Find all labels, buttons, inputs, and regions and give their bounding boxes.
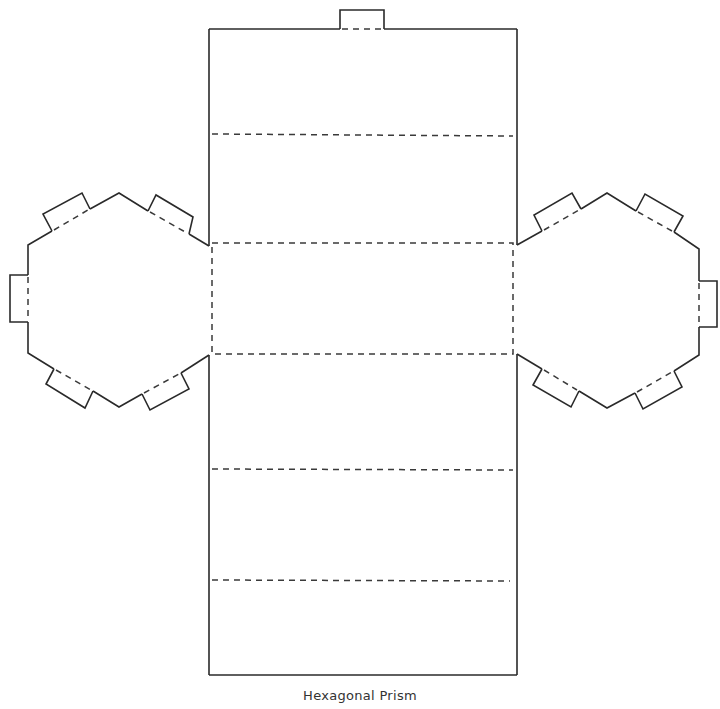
left-hex-tab-upper-right <box>148 195 193 234</box>
right-hexagon-base <box>517 193 717 409</box>
right-hex-tab-upper-left <box>534 193 581 231</box>
left-hex-tab-left <box>10 275 28 322</box>
right-hex-tab-lower-right <box>635 371 682 409</box>
middle-lateral-face <box>212 243 513 354</box>
lateral-fold-lines <box>212 134 513 581</box>
right-hex-tab-right <box>699 281 717 327</box>
fold-line-2 <box>212 469 513 470</box>
left-hex-tab-lower-left <box>46 369 93 408</box>
lateral-faces-strip <box>209 29 517 675</box>
right-hex-tab-upper-right <box>636 194 683 232</box>
hexagonal-prism-net <box>0 0 720 709</box>
fold-line-1 <box>212 134 513 136</box>
left-hexagon-base <box>10 193 209 410</box>
diagram-caption: Hexagonal Prism <box>0 688 720 703</box>
left-hex-tab-lower-right <box>142 373 189 410</box>
fold-line-3 <box>212 580 510 581</box>
top-glue-tab <box>340 10 384 29</box>
right-hex-tab-lower-left <box>533 369 579 407</box>
left-hex-tab-upper-left <box>43 193 90 231</box>
